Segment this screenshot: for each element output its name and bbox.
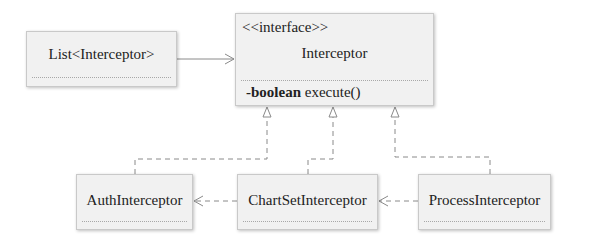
class-auth-interceptor[interactable]: AuthInterceptor bbox=[76, 174, 193, 230]
operation-modifier: -boolean bbox=[246, 84, 301, 100]
realization-triangle-icon bbox=[329, 107, 337, 117]
class-list-interceptor[interactable]: List<Interceptor> bbox=[26, 31, 177, 87]
compartment-divider bbox=[243, 221, 372, 222]
realization-line-process bbox=[395, 117, 490, 174]
realization-line-chartset bbox=[308, 117, 333, 174]
class-name: List<Interceptor> bbox=[27, 46, 176, 63]
compartment-divider bbox=[424, 221, 545, 222]
interface-interceptor[interactable]: <<interface>> Interceptor -boolean execu… bbox=[235, 13, 434, 106]
realization-triangle-icon bbox=[263, 107, 271, 117]
realization-triangle-icon bbox=[391, 107, 399, 117]
realization-line-auth bbox=[135, 117, 267, 174]
class-chartset-interceptor[interactable]: ChartSetInterceptor bbox=[237, 174, 378, 230]
stereotype-label: <<interface>> bbox=[242, 19, 328, 36]
class-name: ChartSetInterceptor bbox=[238, 192, 377, 209]
class-name: ProcessInterceptor bbox=[419, 192, 550, 209]
compartment-divider bbox=[32, 77, 171, 78]
class-process-interceptor[interactable]: ProcessInterceptor bbox=[418, 174, 551, 230]
operation-name: execute() bbox=[305, 84, 361, 100]
class-name: AuthInterceptor bbox=[77, 192, 192, 209]
operation-execute: -boolean execute() bbox=[246, 84, 361, 101]
compartment-divider bbox=[241, 80, 428, 81]
compartment-divider bbox=[82, 221, 187, 222]
interface-name: Interceptor bbox=[236, 45, 433, 62]
